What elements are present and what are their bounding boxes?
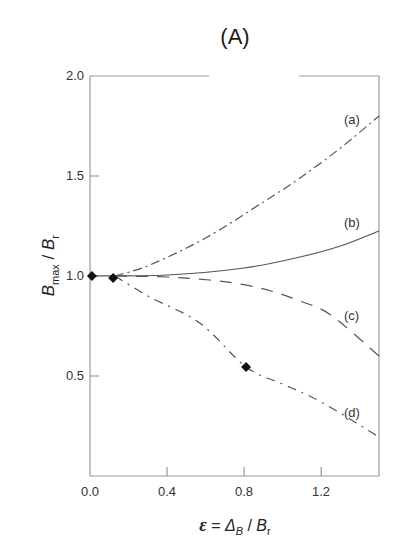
y-tick-label: 1.5 xyxy=(44,168,84,183)
curve-a xyxy=(115,116,379,276)
slash: / xyxy=(39,250,58,264)
br-subscript: r xyxy=(49,235,61,239)
slash: / xyxy=(247,517,251,534)
b-symbol: B xyxy=(256,517,267,534)
delta-symbol: Δ xyxy=(225,517,236,534)
curve-c xyxy=(115,276,379,356)
diamond-marker xyxy=(241,362,251,372)
curve-b xyxy=(90,231,379,276)
equals-sign: = xyxy=(211,517,220,534)
epsilon-symbol: ε xyxy=(199,515,206,535)
x-tick-label: 0.8 xyxy=(224,484,264,499)
series-label-c: (c) xyxy=(344,308,359,323)
curve-d xyxy=(115,276,379,437)
x-tick-label: 0.0 xyxy=(70,484,110,499)
series-label-d: (d) xyxy=(344,405,360,420)
bmax-symbol: B xyxy=(39,285,58,296)
bmax-subscript: max xyxy=(49,264,61,285)
diamond-marker xyxy=(87,271,97,281)
b-subscript: r xyxy=(267,525,271,537)
y-axis-label: Bmax / Br xyxy=(39,196,60,336)
series-label-a: (a) xyxy=(344,112,360,127)
series-label-b: (b) xyxy=(344,215,360,230)
x-axis-label: ε = ΔB / Br xyxy=(130,515,340,537)
x-tick-label: 1.2 xyxy=(301,484,341,499)
chart-area: (A) 2.0 1.5 1.0 0.5 0.0 0.4 0.8 1.2 (a) … xyxy=(0,0,406,555)
y-tick-label: 2.0 xyxy=(44,68,84,83)
delta-subscript: B xyxy=(236,525,243,537)
diamond-marker xyxy=(108,273,118,283)
x-tick-label: 0.4 xyxy=(147,484,187,499)
br-symbol: B xyxy=(39,239,58,250)
chart-title: (A) xyxy=(210,24,260,50)
y-tick-label: 0.5 xyxy=(44,368,84,383)
